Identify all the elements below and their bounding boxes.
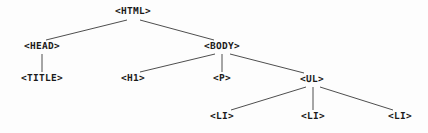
- tree-node-ul: <UL>: [300, 75, 324, 85]
- tree-edge-ul-to-li1: [231, 87, 306, 110]
- tree-node-html: <HTML>: [115, 7, 151, 17]
- tree-edge-ul-to-li3: [320, 87, 393, 110]
- tree-node-h1: <H1>: [121, 74, 145, 84]
- tree-edge-body-to-h1: [140, 54, 215, 72]
- tree-node-p: <P>: [213, 74, 231, 84]
- tree-edge-body-to-ul: [230, 54, 304, 73]
- tree-node-li3: <LI>: [388, 112, 412, 122]
- dom-tree-diagram: <HTML><HEAD><BODY><TITLE><H1><P><UL><LI>…: [0, 0, 428, 133]
- tree-node-body: <BODY>: [204, 42, 240, 52]
- tree-node-li1: <LI>: [210, 112, 234, 122]
- tree-node-title: <TITLE>: [21, 74, 63, 84]
- tree-edge-html-to-head: [46, 20, 127, 40]
- tree-node-head: <HEAD>: [24, 42, 60, 52]
- tree-edge-html-to-body: [140, 20, 214, 40]
- tree-node-li2: <LI>: [301, 112, 325, 122]
